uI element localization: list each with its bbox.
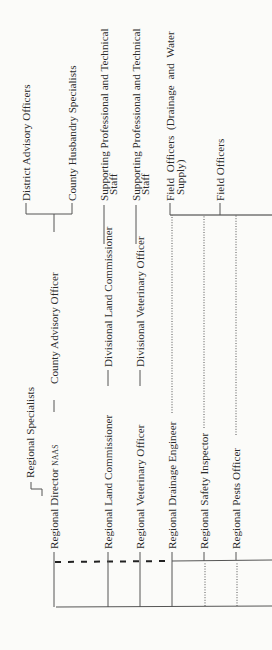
svg-text:Staff: Staff <box>107 173 119 195</box>
county-advisory-officer: County Advisory Officer <box>48 272 60 384</box>
regional-director: Regional Director NAAS <box>48 444 60 549</box>
upper-baseline <box>172 560 272 561</box>
svg-text:Regional Land Commissioner: Regional Land Commissioner <box>102 414 114 549</box>
svg-text:Regional Specialists: Regional Specialists <box>24 387 36 478</box>
regional-land-commissioner: Regional Land Commissioner <box>102 414 114 549</box>
field-officers: Field Officers <box>214 139 226 201</box>
regional-drainage-engineer: Regional Drainage Engineer <box>166 421 178 549</box>
svg-text:County Advisory Officer: County Advisory Officer <box>48 272 60 384</box>
svg-text:Divisional Land Commissioner: Divisional Land Commissioner <box>102 226 114 367</box>
regional-veterinary-officer: Regional Veterinary Officer <box>134 424 146 549</box>
svg-text:County Husbandry Specialists: County Husbandry Specialists <box>66 66 78 202</box>
svg-text:Regional Pests Officer: Regional Pests Officer <box>230 448 242 549</box>
svg-text:Regional Director NAAS: Regional Director NAAS <box>48 444 60 549</box>
supporting-staff-veterinary: Supporting Professional and Technical St… <box>130 28 151 201</box>
svg-text:District Advisory Officers: District Advisory Officers <box>20 84 32 201</box>
svg-text:Divisional Veterinary Officer: Divisional Veterinary Officer <box>134 236 146 367</box>
bottom-baseline <box>56 606 272 607</box>
svg-text:Staff: Staff <box>139 173 151 195</box>
regional-pests-officer: Regional Pests Officer <box>230 448 242 549</box>
county-husbandry-specialists: County Husbandry Specialists <box>66 66 78 202</box>
regional-specialists: Regional Specialists <box>24 387 36 478</box>
supporting-staff-land: Supporting Professional and Technical St… <box>98 28 119 201</box>
divisional-land-commissioner: Divisional Land Commissioner <box>102 226 114 367</box>
svg-text:Regional Veterinary Officer: Regional Veterinary Officer <box>134 424 146 549</box>
svg-text:Supply): Supply) <box>174 159 187 195</box>
district-advisory-officers: District Advisory Officers <box>20 84 32 201</box>
svg-text:Field Officers: Field Officers <box>214 139 226 201</box>
divisional-veterinary-officer: Divisional Veterinary Officer <box>134 236 146 367</box>
org-chart: Regional Director NAAS Regional Speciali… <box>0 0 272 650</box>
dashed-line <box>55 561 172 562</box>
svg-text:Regional Safety Inspector: Regional Safety Inspector <box>198 433 210 549</box>
svg-text:Regional Drainage Engineer: Regional Drainage Engineer <box>166 421 178 549</box>
field-officers-drainage: Field Officers (Drainage and Water Suppl… <box>164 31 187 201</box>
regional-safety-inspector: Regional Safety Inspector <box>198 433 210 549</box>
